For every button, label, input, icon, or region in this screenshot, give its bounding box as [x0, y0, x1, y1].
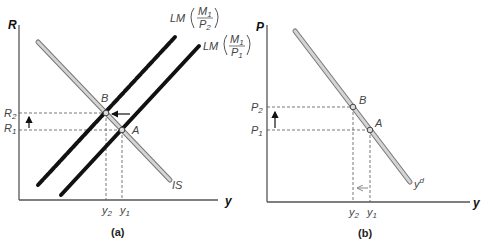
- point-a-a: [119, 127, 125, 133]
- label-a-a: A: [131, 124, 139, 136]
- point-b-a: [103, 110, 109, 116]
- is-label: IS: [172, 179, 183, 191]
- svg-text:LM: LM: [170, 12, 186, 24]
- lm-curve-p1: [61, 46, 199, 195]
- tick-y1-a: y1: [119, 204, 130, 218]
- tick-y2-a: y2: [101, 204, 113, 218]
- r-axis-label: R: [8, 18, 17, 32]
- tick-y1-b: y1: [366, 206, 377, 220]
- p-axis-label: P: [256, 20, 265, 34]
- label-b-b: B: [359, 94, 366, 106]
- yd-label: yd: [413, 176, 425, 190]
- tick-r2: R2: [4, 107, 17, 121]
- svg-text:LM: LM: [203, 40, 219, 52]
- svg-text:M1: M1: [198, 5, 212, 19]
- svg-text:P2: P2: [199, 18, 211, 32]
- panel-b: P y yd B A P2 P1 y2 y1 (b): [251, 20, 481, 239]
- tick-p1: P1: [251, 124, 263, 138]
- svg-text:P1: P1: [231, 46, 243, 60]
- tick-p2: P2: [251, 101, 263, 115]
- tick-r1: R1: [4, 122, 16, 136]
- lm-p1-label: LM M1 P1: [203, 33, 250, 60]
- diagram-canvas: R y IS LM M1 P2 LM M1 P: [0, 0, 481, 248]
- caption-a: (a): [111, 226, 125, 238]
- label-b-a: B: [101, 92, 108, 104]
- svg-text:M1: M1: [230, 33, 244, 47]
- label-a-b: A: [374, 117, 382, 129]
- caption-b: (b): [358, 227, 372, 239]
- y-axis-label-a: y: [224, 194, 233, 208]
- panel-a: R y IS LM M1 P2 LM M1 P: [4, 5, 250, 238]
- point-a-b: [367, 127, 373, 133]
- y-axis-label-b: y: [472, 196, 481, 210]
- point-b-b: [350, 104, 356, 110]
- lm-p2-label: LM M1 P2: [170, 5, 218, 32]
- tick-y2-b: y2: [348, 206, 360, 220]
